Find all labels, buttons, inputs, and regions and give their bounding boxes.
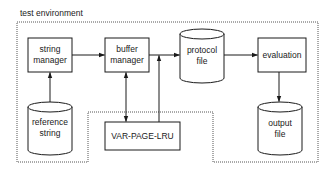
buffer-manager-label-1: buffer: [116, 44, 138, 54]
string-manager-label-2: manager: [33, 55, 67, 65]
evaluation-label: evaluation: [263, 50, 302, 60]
protocol-file-label-2: file: [197, 56, 208, 66]
var-page-lru-node: VAR-PAGE-LRU: [105, 122, 180, 150]
reference-string-label-1: reference: [32, 117, 68, 127]
buffer-manager-label-2: manager: [110, 55, 144, 65]
environment-title: test environment: [20, 8, 83, 18]
string-manager-label-1: string: [40, 44, 61, 54]
reference-string-label-2: string: [40, 128, 61, 138]
reference-string-node: reference string: [28, 102, 72, 155]
buffer-manager-node: buffer manager: [105, 38, 149, 72]
output-file-label-1: output: [268, 118, 292, 128]
string-manager-node: string manager: [28, 38, 72, 72]
output-file-label-2: file: [275, 129, 286, 139]
evaluation-node: evaluation: [258, 38, 306, 72]
test-environment-diagram: test environment string manager buffer m…: [0, 0, 331, 173]
var-page-lru-label: VAR-PAGE-LRU: [111, 131, 174, 141]
protocol-file-label-1: protocol: [187, 45, 217, 55]
output-file-node: output file: [258, 102, 302, 155]
protocol-file-node: protocol file: [180, 29, 224, 83]
